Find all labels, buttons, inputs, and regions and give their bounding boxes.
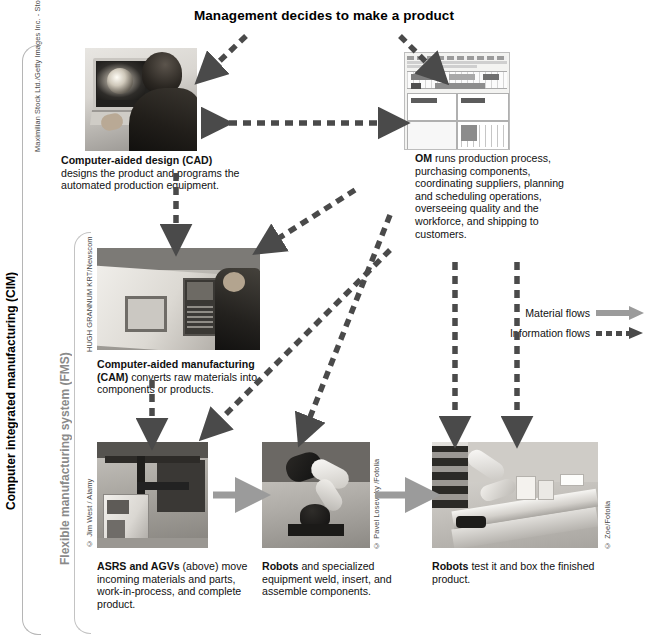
menubar-shape (407, 56, 507, 60)
gantt-bar-shape (449, 74, 475, 80)
legend: Material flows Information flows (489, 303, 644, 343)
robot-base-pod-shape (300, 504, 330, 526)
gantt-bar-shape (483, 74, 499, 80)
machine-screen-shape (125, 296, 167, 332)
robot-assemble-photo-credit: © Pavel Losevsky /Fotolia (372, 486, 381, 550)
robot-assemble-caption: Robots and specialized equipment weld, i… (262, 560, 412, 598)
cam-machine-operator-photo (97, 248, 260, 350)
toolbar-shape (407, 61, 507, 64)
cad-workstation-photo (85, 48, 197, 151)
legend-row-material: Material flows (489, 303, 644, 323)
information-flow-arrow-icon (596, 326, 644, 340)
cim-diagram: Management decides to make a product Com… (0, 0, 648, 640)
testing-boxing-robot-photo (432, 442, 598, 548)
asrs-caption: ASRS and AGVs (above) move incoming mate… (97, 560, 257, 610)
legend-information-label: Information flows (510, 327, 590, 339)
gantry-arm-shape (137, 482, 189, 490)
fms-bracket-label: Flexible manufacturing system (FMS) (58, 265, 72, 565)
cad-caption: Computer-aided design (CAD) designs the … (61, 154, 251, 192)
welding-robot-photo (262, 442, 370, 548)
asrs-caption-bold: ASRS and AGVs (97, 560, 180, 572)
cam-photo-credit: HUGH GRANNUM KRT/Newscom (85, 248, 94, 352)
page-title: Management decides to make a product (0, 8, 648, 23)
cad-caption-bold: Computer-aided design (CAD) (61, 154, 212, 166)
robot-test-caption-bold: Robots (432, 560, 468, 572)
agv-door-shape (107, 520, 125, 538)
legend-material-label: Material flows (525, 307, 590, 319)
floor-shape (97, 538, 208, 548)
robot-platform-shape (288, 524, 344, 536)
om-caption-rest: runs production process, purchasing comp… (415, 152, 564, 240)
product-box-shape (538, 480, 554, 500)
arrow-title-to-cad (208, 36, 246, 72)
selected-row-shape (411, 98, 437, 103)
gantt-bar-shape (411, 83, 421, 89)
cim-bracket-label: Computer integrated manufacturing (CIM) (4, 170, 18, 510)
gantt-bar-shape (411, 74, 441, 80)
product-box-shape (516, 476, 536, 500)
asrs-photo-credit: © Jim West / Alamy (85, 442, 94, 548)
agv-panel-shape (107, 500, 129, 514)
robot-test-caption: Robots test it and box the finished prod… (432, 560, 612, 585)
robot-assemble-caption-bold: Robots (262, 560, 298, 572)
gantry-beam-shape (105, 456, 200, 463)
cam-caption: Computer-aided manufacturing (CAM) conve… (97, 358, 272, 396)
cad-model-shape (107, 68, 133, 94)
product-box-shape (560, 474, 584, 486)
om-caption-bold: OM (415, 152, 432, 164)
operator-head-shape (223, 272, 245, 292)
om-caption: OM runs production process, purchasing c… (415, 152, 575, 240)
robot-test-photo-credit: © Zoe/Fotolia (603, 486, 612, 550)
cad-photo-credit: Maximilian Stock Ltd./Getty Images Inc. … (33, 48, 42, 152)
gantt-bar-shape (435, 83, 485, 89)
robot-base-shape (456, 516, 486, 528)
material-flow-arrow-icon (596, 306, 644, 320)
person-body-shape (129, 88, 197, 151)
panel-display-shape (187, 282, 213, 300)
legend-row-information: Information flows (489, 323, 644, 343)
shelf-rack-shape (432, 446, 468, 508)
subpanel-shape (407, 121, 457, 150)
panel-buttons-shape (187, 304, 213, 328)
arrow-om-to-robot-assemble (305, 215, 390, 430)
om-software-screenshot (404, 52, 510, 150)
cad-caption-rest: designs the product and programs the aut… (61, 167, 239, 192)
selected-row-shape (461, 98, 485, 103)
addressbar-shape (407, 65, 477, 68)
selected-row-shape (461, 125, 477, 141)
arrow-om-to-cam (268, 190, 355, 245)
asrs-agv-photo (97, 442, 208, 548)
